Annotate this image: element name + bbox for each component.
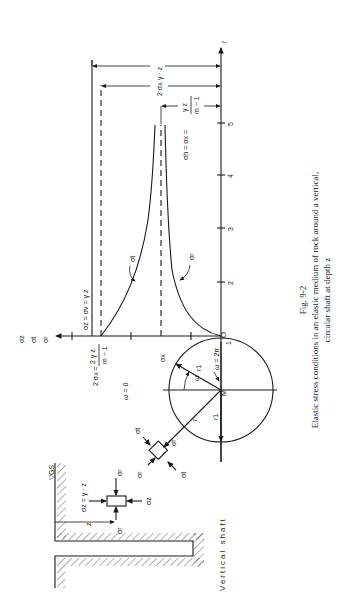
- svg-text:σt: σt: [180, 472, 187, 478]
- tick-label-4: 4: [227, 174, 234, 178]
- svg-text:m − 1: m − 1: [193, 96, 200, 114]
- two-sigma-x-annotation: 2 σx = 2 γ z m − 1: [89, 344, 108, 386]
- svg-text:z: z: [85, 522, 92, 526]
- sigma-r-curve: [165, 125, 221, 336]
- caption-line-1: Elastic stress conditions in an elastic …: [310, 172, 320, 428]
- figure-9-2: 1 2 3 4 5 r O σz σt σr σt σr σz = σv = γ…: [0, 0, 352, 606]
- ground-surface-label: ▽GS: [48, 465, 55, 480]
- svg-text:σr: σr: [136, 471, 143, 478]
- svg-text:σz: σz: [145, 497, 152, 505]
- svg-text:2 γ z: 2 γ z: [89, 349, 97, 364]
- center-label-M: M: [220, 390, 227, 396]
- dimension-gamma-z: γ · z: [92, 60, 220, 80]
- sigma-r-curve-label: σr: [188, 253, 195, 260]
- origin-label: O: [219, 332, 228, 338]
- dimension-sigma-h: σh = σx = γ z m − 1: [161, 96, 220, 160]
- svg-text:γ · z: γ · z: [156, 66, 164, 80]
- r-axis-label: r: [220, 40, 227, 43]
- svg-text:σt: σt: [134, 428, 141, 434]
- tick-label-3: 3: [227, 227, 234, 231]
- tick-label-1: 1: [225, 341, 232, 345]
- shaft-cross-section: ω r1 M r1 r ω = 0 ω = 2π: [122, 338, 277, 462]
- svg-text:r1: r1: [195, 365, 202, 371]
- axis-label-sigma-t: σt: [30, 337, 37, 343]
- stress-axis: σz σt σr: [18, 332, 221, 343]
- tick-label-2: 2: [227, 281, 234, 285]
- svg-text:γ z: γ z: [181, 103, 189, 112]
- svg-text:σr: σr: [116, 527, 123, 534]
- figure-caption: Fig. 9-2 Elastic stress conditions in an…: [298, 172, 332, 428]
- svg-text:m − 1: m − 1: [101, 346, 108, 364]
- vertical-shaft-section: ▽GS z σz = γ · z σr σr σz Vertical shaft: [48, 463, 227, 591]
- r-axis: 1 2 3 4 5 r O: [217, 40, 234, 462]
- axis-label-sigma-z: σz: [18, 335, 25, 343]
- svg-text:σr: σr: [170, 439, 177, 446]
- svg-text:2 σx =: 2 σx =: [92, 366, 99, 386]
- rotated-stress-element: σt σr σr σt: [134, 428, 187, 478]
- sigma-x-label: σx: [159, 354, 166, 362]
- sigma-t-curve-label: σt: [129, 256, 136, 262]
- omega-arc: [184, 372, 189, 390]
- dimension-two-sigma-x: 2 σx: [102, 82, 220, 96]
- figure-number: Fig. 9-2: [298, 286, 308, 315]
- shaft-stress-element: [107, 496, 126, 506]
- sigma-z-equation: σz = σv = γ z: [82, 289, 90, 330]
- caption-line-2: circular shaft at depth z: [322, 258, 332, 342]
- omega-zero-label: ω = 0: [122, 383, 129, 400]
- svg-text:ω: ω: [193, 375, 200, 381]
- svg-text:σh = σx =: σh = σx =: [182, 130, 189, 160]
- axis-label-sigma-r: σr: [42, 336, 49, 343]
- svg-text:σz = γ · z: σz = γ · z: [80, 482, 88, 512]
- sigma-t-curve: [101, 125, 155, 336]
- svg-text:2 σx: 2 σx: [156, 82, 163, 96]
- vertical-shaft-label: Vertical shaft: [218, 517, 227, 591]
- tick-label-5: 5: [227, 122, 234, 126]
- omega-2pi-label: ω = 2π: [213, 348, 220, 370]
- svg-text:σr: σr: [116, 469, 123, 476]
- svg-text:r1: r1: [212, 414, 219, 420]
